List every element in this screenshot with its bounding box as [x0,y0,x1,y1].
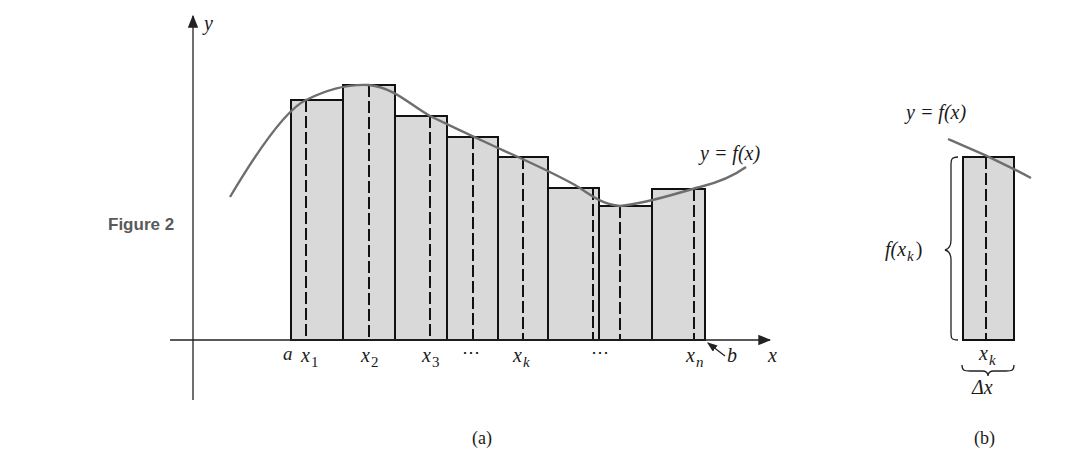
label-x1: x1 [300,344,318,370]
rectangle-7 [599,206,652,340]
rectangle-1 [291,100,343,340]
width-label: Δx [971,376,993,398]
height-brace [945,157,958,340]
caption-b: (b) [974,428,995,449]
endpoint-b-label: b [727,344,737,366]
rectangle-3 [395,116,447,340]
height-label: f(xk) [885,238,922,264]
curve-label: y = f(x) [698,142,760,165]
label-xk: xk [512,344,530,370]
y-axis-label: y [202,12,213,35]
label-ellipsis-1: ⋯ [462,342,480,362]
rectangle-6 [548,188,599,340]
label-x3: x3 [421,344,439,370]
panel-b-sample-label: xk [978,342,996,368]
single-rectangle [963,157,1014,340]
rectangle-8 [652,189,705,340]
label-xn: xn [685,344,703,370]
caption-a: (a) [472,428,492,449]
riemann-sum-diagram: y x y = f(x) [0,0,1069,475]
endpoint-b-pointer [708,343,725,356]
label-ellipsis-2: ⋯ [591,342,609,362]
endpoint-a-label: a [283,343,293,364]
panel-a: y x y = f(x) [170,12,777,449]
rectangles [291,85,705,340]
panel-b: y = f(x) f(xk) xk Δx (b) [885,101,1031,449]
x-axis-label: x [767,344,777,366]
panel-b-curve-label: y = f(x) [904,101,966,124]
label-x2: x2 [360,344,378,370]
